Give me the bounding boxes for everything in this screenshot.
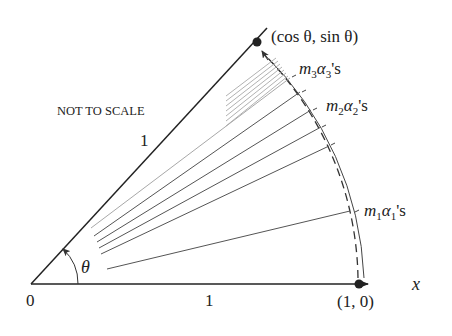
point-unit bbox=[355, 280, 364, 289]
ray-m2-1 bbox=[101, 146, 329, 254]
ray-m2-2 bbox=[99, 127, 321, 248]
ray-m2-3 bbox=[97, 110, 311, 242]
theta-arc bbox=[63, 249, 78, 284]
tick-label-m1a1: m1α1's bbox=[364, 201, 406, 222]
point-unit-label: (1, 0) bbox=[337, 292, 374, 311]
dashed-arc-arrow bbox=[262, 51, 268, 60]
ray-m2-5 bbox=[91, 78, 290, 228]
ray-bundle-m3 bbox=[226, 58, 288, 126]
angle-label: θ bbox=[81, 257, 90, 277]
x-axis-label: x bbox=[411, 274, 420, 294]
origin-label: 0 bbox=[26, 291, 35, 310]
x-unit-label: 1 bbox=[205, 291, 214, 310]
tick-label-m2a2: m2α2's bbox=[326, 96, 368, 117]
terminal-ray bbox=[31, 28, 267, 284]
radius-label: 1 bbox=[140, 131, 149, 150]
note-label: NOT TO SCALE bbox=[57, 104, 145, 118]
ray-m1 bbox=[107, 211, 350, 269]
tick-arc bbox=[264, 54, 364, 278]
dashed-arc bbox=[263, 53, 358, 278]
point-unit-circle-label: (cos θ, sin θ) bbox=[271, 27, 358, 46]
angle-diagram: NOT TO SCALE 1 0 1 θ x (1, 0) (cos θ, si… bbox=[0, 0, 452, 336]
tick-label-m3a3: m3α3's bbox=[299, 59, 341, 80]
point-unit-circle bbox=[253, 38, 262, 47]
